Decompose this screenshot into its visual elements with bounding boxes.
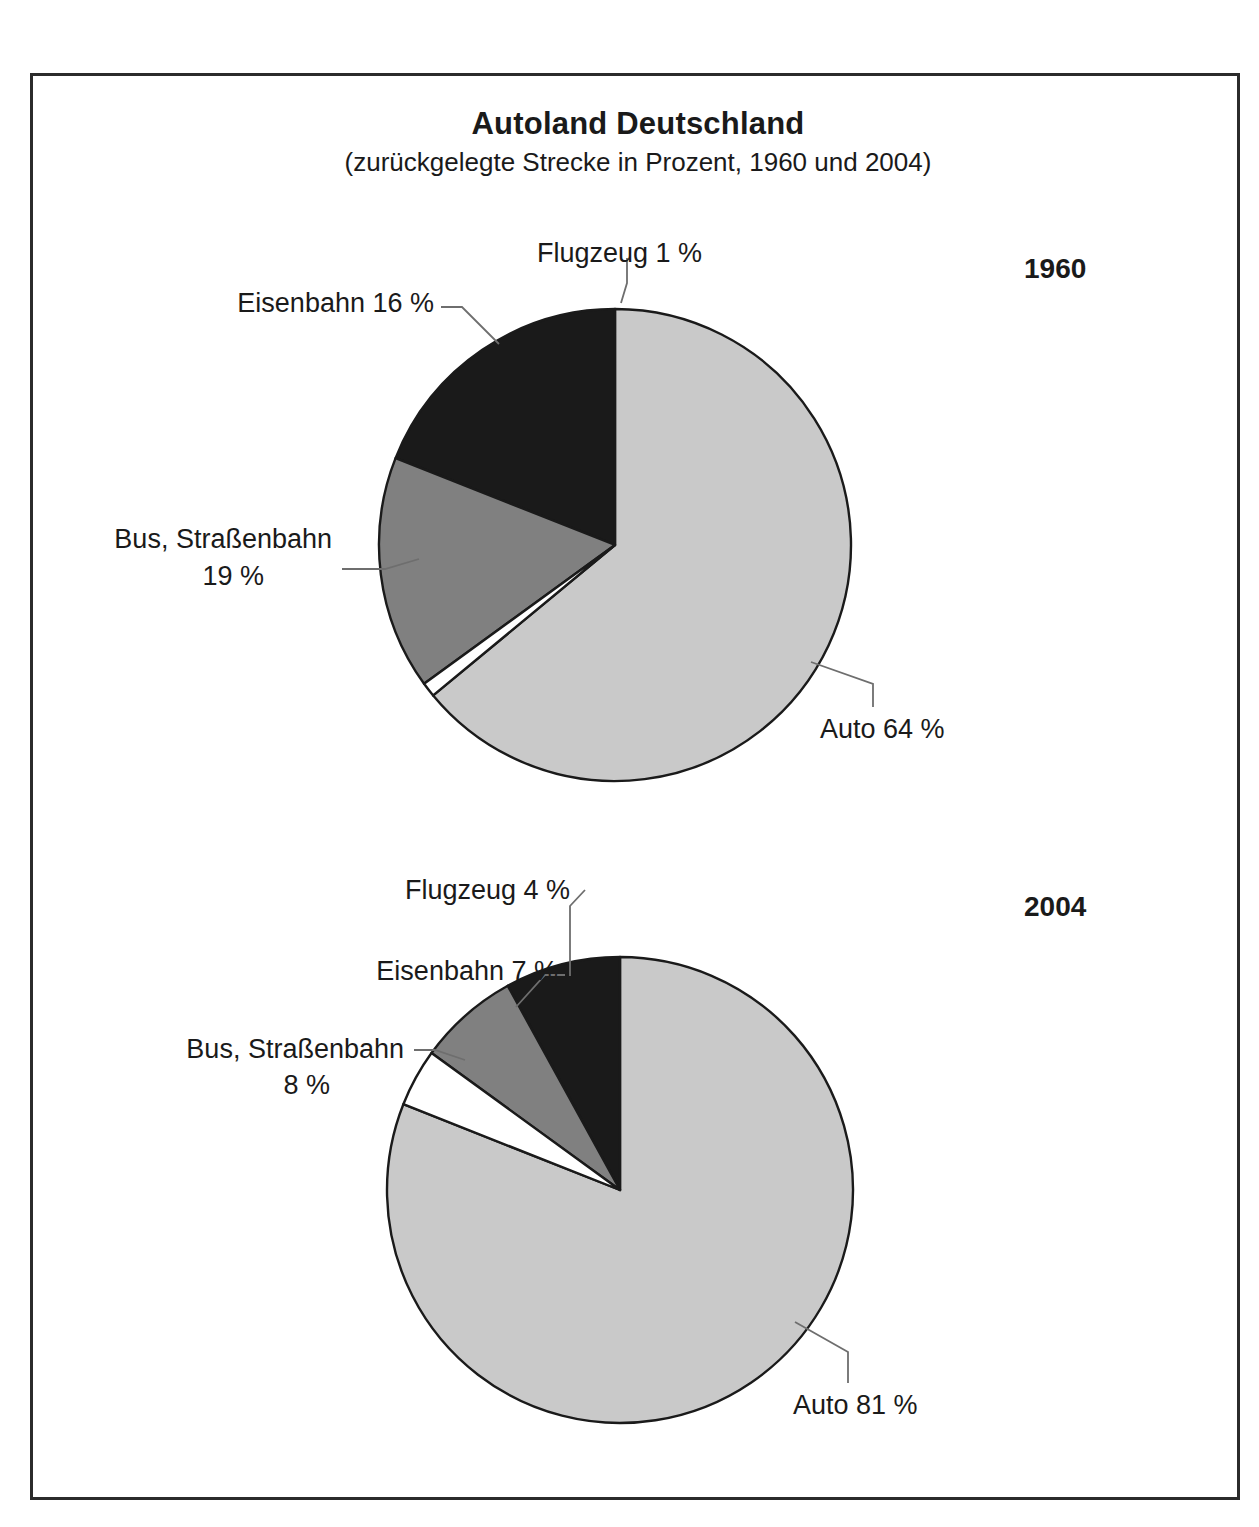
pie-chart-2004: Flugzeug 4 % Eisenbahn 7 % Bus, Straßenb…	[186, 875, 1086, 1423]
pie-charts-svg: Flugzeug 1 % Eisenbahn 16 % Bus, Straßen…	[0, 0, 1259, 1527]
pie-label-eisenbahn-1960: Eisenbahn 16 %	[237, 288, 434, 318]
pie-label-flugzeug-1960: Flugzeug 1 %	[537, 238, 702, 268]
figure-root: Autoland Deutschland (zurückgelegte Stre…	[0, 0, 1259, 1527]
pie-label-bus-2004-line1: Bus, Straßenbahn	[186, 1034, 404, 1064]
pie-label-bus-1960-line1: Bus, Straßenbahn	[114, 524, 332, 554]
pie-label-eisenbahn-2004: Eisenbahn 7 %	[376, 956, 558, 986]
pie-label-flugzeug-2004: Flugzeug 4 %	[405, 875, 570, 905]
pie-chart-1960: Flugzeug 1 % Eisenbahn 16 % Bus, Straßen…	[114, 238, 1086, 781]
leader-line-auto-1960	[811, 662, 873, 707]
leader-line-eisenbahn-1960	[441, 307, 499, 344]
pie-label-auto-1960: Auto 64 %	[820, 714, 945, 744]
pie-label-bus-1960-line2: 19 %	[202, 561, 264, 591]
pie-label-auto-2004: Auto 81 %	[793, 1390, 918, 1420]
year-label-2004: 2004	[1024, 891, 1087, 922]
year-label-1960: 1960	[1024, 253, 1086, 284]
pie-label-bus-2004-line2: 8 %	[283, 1070, 330, 1100]
